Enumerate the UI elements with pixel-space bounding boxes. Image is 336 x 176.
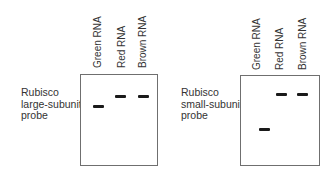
lane-label-brown: Brown RNA xyxy=(297,18,308,70)
band-green-lane xyxy=(259,128,270,131)
lane-label-green: Green RNA xyxy=(251,18,262,70)
band-red-lane xyxy=(276,93,287,96)
blot-frame xyxy=(240,75,320,166)
band-brown-lane xyxy=(297,93,308,96)
probe-label-small-subunit: Rubisco small-subunit probe xyxy=(181,87,243,122)
probe-label-line: probe xyxy=(181,110,243,122)
small-subunit-panel: Rubisco small-subunit probe Green RNA Re… xyxy=(0,0,336,176)
lane-label-red: Red RNA xyxy=(274,28,285,70)
probe-label-line: Rubisco xyxy=(181,87,243,99)
